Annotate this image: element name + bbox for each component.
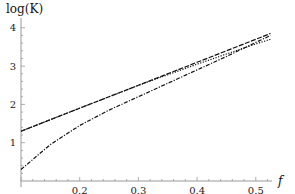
- series-dash-dot: [21, 36, 271, 170]
- ticks: 0.20.30.40.51234: [10, 22, 268, 194]
- x-tick-label: 0.5: [248, 185, 264, 194]
- line-chart: 0.20.30.40.51234 log(K) f: [0, 0, 295, 194]
- y-tick-label: 4: [10, 22, 16, 33]
- y-axis-label: log(K): [6, 2, 43, 16]
- series-group: [21, 34, 271, 170]
- axes: [21, 18, 272, 187]
- x-tick-label: 0.4: [189, 185, 205, 194]
- x-tick-label: 0.2: [72, 185, 88, 194]
- y-tick-label: 2: [10, 99, 16, 110]
- x-tick-label: 0.3: [130, 185, 146, 194]
- series-dotted: [21, 39, 271, 131]
- x-axis-label: f: [277, 174, 285, 188]
- series-dashed: [21, 34, 271, 132]
- y-tick-label: 1: [10, 137, 16, 148]
- y-tick-label: 3: [10, 61, 16, 72]
